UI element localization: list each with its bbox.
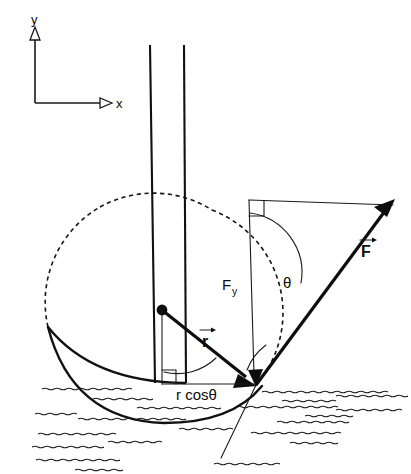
force-vector-shaft — [256, 211, 385, 385]
force-line-of-action-extension — [221, 385, 256, 458]
y-axis-label: y — [31, 12, 38, 27]
F-vector-overbar-arrowhead-icon — [372, 238, 377, 243]
force-vector-label: F — [361, 243, 371, 260]
mast-right-spar — [184, 45, 186, 383]
lever-arm-label: r cosθ — [176, 386, 217, 403]
force-y-subscript-label: y — [232, 285, 238, 297]
radius-vector-label: r — [202, 333, 208, 350]
y-axis-arrowhead-icon — [30, 27, 40, 40]
masts — [150, 45, 186, 383]
dashed-arc-left — [45, 207, 100, 327]
angle-arc-at-pivot — [247, 345, 266, 370]
triangle-vertical-edge-Fy — [249, 200, 254, 375]
dashed-arc-top — [100, 193, 212, 210]
radius-vector-label-group: r — [200, 328, 216, 351]
force-vector-F — [221, 199, 395, 458]
x-axis-arrowhead-icon — [100, 98, 112, 108]
angle-theta-label: θ — [283, 274, 291, 291]
x-axis-label: x — [116, 96, 123, 111]
coordinate-axes: y x — [30, 12, 123, 111]
water-hatching — [32, 388, 408, 471]
force-y-label-group: F y — [222, 276, 238, 297]
r-vector-overbar-arrowhead-icon — [211, 328, 216, 333]
angle-arc-at-mast-top — [164, 358, 216, 374]
force-y-label: F — [222, 276, 231, 293]
theta-arc — [250, 213, 302, 283]
mast-left-spar — [150, 45, 155, 383]
torque-diagram-svg: y x — [0, 0, 411, 474]
force-vector-arrowhead-icon — [374, 199, 395, 217]
triangle-top-edge — [249, 200, 393, 205]
physics-diagram-canvas: y x — [0, 0, 411, 474]
